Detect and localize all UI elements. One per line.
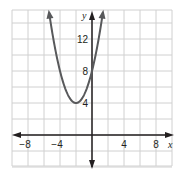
x-axis-arrow-left-icon (12, 132, 21, 138)
tick-labels: −8−4484812xy (19, 10, 173, 150)
axes (12, 11, 174, 169)
x-tick-label: −4 (51, 139, 63, 150)
y-tick-label: 4 (82, 98, 88, 109)
x-tick-label: 8 (153, 139, 159, 150)
y-axis-arrow-down-icon (89, 160, 95, 169)
x-axis-label: x (167, 139, 173, 150)
curve-arrow-icon (47, 10, 54, 19)
y-tick-label: 8 (82, 66, 88, 77)
curve-arrow-icon (99, 10, 106, 19)
y-tick-label: 12 (77, 34, 89, 45)
x-axis-arrow-right-icon (165, 132, 174, 138)
parabola-graph: −8−4484812xy (0, 0, 179, 171)
y-axis-label: y (81, 10, 87, 21)
x-tick-label: 4 (121, 139, 127, 150)
y-axis-arrow-up-icon (89, 11, 95, 20)
x-tick-label: −8 (19, 139, 31, 150)
